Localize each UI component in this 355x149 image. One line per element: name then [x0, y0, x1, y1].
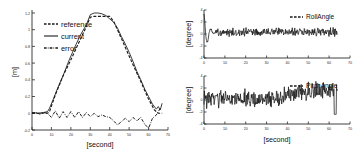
left-ytick-0_4: 0.4 [25, 78, 30, 82]
pitch-x-ticks: 0 10 20 30 40 50 60 70 [203, 122, 352, 131]
pitch-ytick-2: 2 [201, 86, 203, 90]
left-xtick-60: 60 [147, 133, 151, 137]
left-legend: reference current error [44, 20, 92, 53]
legend-label-current: current [61, 32, 84, 41]
roll-ytick-4: 4 [201, 8, 203, 12]
legend-label-reference: reference [61, 20, 92, 29]
left-xtick-70: 70 [166, 133, 170, 137]
left-xtick-50: 50 [127, 133, 131, 137]
roll-ytick-2: 2 [201, 20, 203, 24]
roll-x-ticks: 0 10 20 30 40 50 60 70 [203, 56, 352, 65]
left-ytick-0: 0 [28, 112, 30, 116]
legend-label-rollangle: RollAngle [306, 13, 335, 21]
series-pitch-angle [204, 81, 337, 114]
pitch-ytick-neg2: -2 [199, 110, 202, 114]
pitch-xtick-0: 0 [203, 127, 205, 131]
roll-ytick-0: 0 [201, 32, 203, 36]
pitch-xtick-30: 30 [265, 127, 269, 131]
pitch-xtick-60: 60 [327, 127, 331, 131]
roll-xtick-60: 60 [327, 61, 331, 65]
roll-xtick-70: 70 [348, 61, 352, 65]
left-xtick-40: 40 [108, 133, 112, 137]
left-ytick-0_8: 0.8 [25, 45, 30, 49]
legend-label-error: error [61, 44, 77, 53]
pitch-ytick-4: 4 [201, 74, 203, 78]
series-error [32, 108, 160, 128]
roll-ytick-neg2: -2 [199, 44, 202, 48]
roll-xtick-50: 50 [306, 61, 310, 65]
pitch-xtick-70: 70 [348, 127, 352, 131]
roll-ytick-neg4: -4 [199, 56, 202, 60]
left-yaxis-label: [m] [10, 67, 19, 77]
left-xaxis-label: [second] [86, 140, 113, 149]
roll-legend: RollAngle [290, 13, 335, 21]
left-ytick-1_2: 1.2 [25, 12, 30, 16]
left-y-ticks: 1.2 1 0.8 0.6 0.4 0.2 0 -0.2 [24, 12, 35, 133]
left-xtick-30: 30 [88, 133, 92, 137]
left-xtick-20: 20 [69, 133, 73, 137]
roll-yaxis-label: [degree] [184, 21, 193, 47]
left-xtick-10: 10 [49, 133, 53, 137]
left-series-group [32, 13, 162, 128]
pitch-ytick-neg4: -4 [199, 122, 202, 126]
roll-xtick-20: 20 [244, 61, 248, 65]
roll-xtick-0: 0 [203, 61, 205, 65]
roll-angle-panel: 4 2 0 -2 -4 0 10 20 30 40 50 [182, 4, 355, 72]
pitch-xtick-10: 10 [223, 127, 227, 131]
pitch-xtick-40: 40 [285, 127, 289, 131]
series-current [32, 13, 162, 113]
left-ytick-0_6: 0.6 [25, 62, 30, 66]
pitch-yaxis-label: [degree] [184, 87, 193, 113]
left-axes [32, 10, 168, 130]
roll-xtick-40: 40 [285, 61, 289, 65]
figure-container: 1.2 1 0.8 0.6 0.4 0.2 0 -0.2 0 10 [0, 0, 355, 149]
roll-xtick-10: 10 [223, 61, 227, 65]
roll-xtick-30: 30 [265, 61, 269, 65]
left-ytick-1: 1 [28, 28, 30, 32]
pitch-y-ticks: 4 2 0 -2 -4 [199, 74, 206, 126]
left-ytick-neg0_2: -0.2 [24, 129, 30, 133]
left-x-ticks: 0 10 20 30 40 50 60 70 [31, 127, 170, 137]
position-tracking-panel: 1.2 1 0.8 0.6 0.4 0.2 0 -0.2 0 10 [6, 2, 176, 149]
pitch-xtick-50: 50 [306, 127, 310, 131]
left-xtick-0: 0 [31, 133, 33, 137]
left-ytick-0_2: 0.2 [25, 95, 30, 99]
pitch-xtick-20: 20 [244, 127, 248, 131]
series-reference [32, 16, 162, 113]
pitch-angle-panel: 4 2 0 -2 -4 0 10 20 30 40 50 [182, 70, 355, 149]
pitch-ytick-0: 0 [201, 98, 203, 102]
pitch-xaxis-label: [second] [263, 135, 290, 144]
